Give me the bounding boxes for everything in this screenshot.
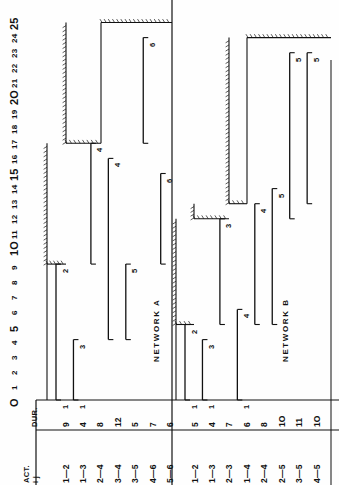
act-label: 1—3 <box>207 464 217 483</box>
envelope-a-step1 <box>46 261 66 264</box>
dur-value: 7 <box>148 422 158 427</box>
act-label: 2—4 <box>95 464 105 483</box>
header-ij: i j <box>31 476 40 483</box>
envelope-a-riser1 <box>44 143 47 265</box>
bar-end-node: 5 <box>294 58 303 62</box>
dur-value: 11 <box>294 418 304 427</box>
axis-tick-11: 11 <box>10 231 19 240</box>
axis-tick-4: 4 <box>10 340 19 345</box>
header-dur: DUR. <box>30 407 39 427</box>
envelope-b-riser1 <box>173 219 176 326</box>
envelope-b-step1 <box>175 321 194 324</box>
axis-tick-17: 17 <box>10 139 19 148</box>
bar-start-node: 1 <box>190 405 199 409</box>
bar-end-node: 2 <box>61 269 70 273</box>
bar-end-node: 4 <box>242 314 251 318</box>
bar-start-node: 1 <box>242 405 251 409</box>
envelope-b-step4 <box>246 34 331 37</box>
axis-tick-12: 12 <box>10 215 19 224</box>
dur-value: 1O <box>277 416 287 427</box>
act-label: 1—2 <box>190 464 200 483</box>
bar-end-node: 4 <box>259 209 268 213</box>
axis-tick-15: 15 <box>8 168 20 181</box>
act-label: 3—5 <box>294 464 304 483</box>
axis-tick-22: 22 <box>10 64 19 73</box>
act-label: 2—5 <box>277 464 287 483</box>
dur-value: 8 <box>259 422 269 427</box>
bar-start-node: 1 <box>78 405 87 409</box>
envelope-a-step3 <box>100 19 172 22</box>
bar-end-node: 4 <box>113 163 122 167</box>
bar-end-node: 6 <box>148 42 157 46</box>
dur-value: 4 <box>78 422 88 427</box>
network-a-label: NETWORK A <box>152 299 161 362</box>
dur-value: 5 <box>190 422 200 427</box>
act-label: 1—2 <box>61 464 71 483</box>
act-label: 1—4 <box>242 464 252 483</box>
chart-canvas <box>0 0 339 485</box>
dur-value: 4 <box>207 422 217 427</box>
act-label: 2—3 <box>224 464 234 483</box>
bar-start-node: 1 <box>61 405 70 409</box>
axis-tick-3: 3 <box>10 356 19 361</box>
dur-value: 5 <box>130 422 140 427</box>
act-label: 3—4 <box>113 464 123 483</box>
bar-end-node: 2 <box>190 329 199 333</box>
axis-tick-10: 1O <box>8 241 20 256</box>
axis-tick-24: 24 <box>10 34 19 43</box>
chart-root: O1234567891O1112131415161718192O21222324… <box>0 0 339 485</box>
bar-end-node: 5 <box>130 269 139 273</box>
bar-start-node: 1 <box>207 405 216 409</box>
bar-end-node: 4 <box>95 148 104 152</box>
act-label: 1—3 <box>78 464 88 483</box>
bar-end-node: 3 <box>224 224 233 228</box>
dur-value: 7 <box>224 422 234 427</box>
axis-tick-19: 19 <box>10 109 19 118</box>
axis-tick-8: 8 <box>10 280 19 285</box>
axis-tick-14: 14 <box>10 185 19 194</box>
dur-value: 9 <box>61 422 71 427</box>
bar-end-node: 5 <box>312 58 321 62</box>
axis-tick-13: 13 <box>10 200 19 209</box>
dur-value: 6 <box>242 422 252 427</box>
dur-value: 8 <box>95 422 105 427</box>
bar-end-node: 6 <box>165 178 174 182</box>
dur-value: 12 <box>113 418 123 427</box>
axis-tick-6: 6 <box>10 310 19 315</box>
act-label: 3—5 <box>130 464 140 483</box>
axis-tick-20: 2O <box>8 90 20 105</box>
axis-tick-9: 9 <box>10 265 19 270</box>
axis-tick-25: 25 <box>8 17 20 30</box>
act-label: 5—6 <box>165 464 175 483</box>
axis-tick-16: 16 <box>10 155 19 164</box>
axis-tick-23: 23 <box>10 49 19 58</box>
axis-tick-2: 2 <box>10 371 19 376</box>
envelope-a-step2 <box>65 140 101 143</box>
act-label: 4—6 <box>148 464 158 483</box>
axis-tick-18: 18 <box>10 124 19 133</box>
bar-end-node: 5 <box>277 193 286 197</box>
envelope-a-riser2 <box>63 23 66 145</box>
envelope-b-step2 <box>193 215 229 218</box>
axis-tick-0: O <box>8 398 20 407</box>
axis-tick-7: 7 <box>10 295 19 300</box>
dur-value: 6 <box>165 422 175 427</box>
network-b-label: NETWORK B <box>281 298 290 362</box>
act-label: 4—5 <box>312 464 322 483</box>
envelope-b-riser2 <box>191 204 194 220</box>
envelope-b-riser3 <box>226 38 229 205</box>
header-act: ACT. <box>22 465 31 483</box>
axis-tick-21: 21 <box>10 79 19 88</box>
axis-tick-5: 5 <box>8 325 20 331</box>
axis-tick-1: 1 <box>10 386 19 391</box>
bar-end-node: 3 <box>78 344 87 348</box>
act-label: 2—4 <box>259 464 269 483</box>
envelope-b-step3 <box>228 200 247 203</box>
dur-value: 1O <box>312 416 322 427</box>
bar-end-node: 3 <box>207 344 216 348</box>
